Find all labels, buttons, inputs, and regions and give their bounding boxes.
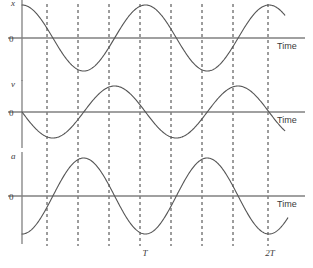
period-label-T: T (142, 248, 148, 258)
time-axis-label-displacement: Time (277, 41, 297, 51)
panel-velocity: v0Time (8, 79, 305, 148)
time-axis-label-acceleration: Time (277, 199, 297, 209)
period-label-2T: 2T (265, 248, 276, 258)
axis-label-acceleration: a (11, 151, 16, 161)
zero-label-displacement: 0 (9, 34, 14, 44)
axis-label-displacement: x (10, 0, 15, 8)
shm-graph-figure: x0Timev0Timea0Time T2T (0, 0, 313, 268)
axis-label-velocity: v (11, 79, 15, 89)
zero-label-acceleration: 0 (9, 192, 14, 202)
zero-label-velocity: 0 (9, 108, 14, 118)
graph-panels-group: x0Timev0Timea0Time (8, 0, 305, 244)
shm-svg-canvas: x0Timev0Timea0Time T2T (0, 0, 313, 268)
time-axis-label-velocity: Time (277, 115, 297, 125)
dashed-gridlines-group (47, 4, 268, 246)
panel-acceleration: a0Time (8, 151, 305, 244)
period-tick-labels-group: T2T (142, 248, 275, 258)
panel-displacement: x0Time (8, 0, 305, 81)
